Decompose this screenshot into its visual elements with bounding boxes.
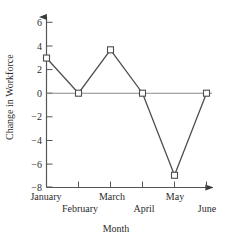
x-tick-label-february: February xyxy=(62,203,98,214)
x-axis-title: Month xyxy=(103,223,130,234)
y-axis-title: Change in Workforce xyxy=(4,54,15,140)
y-tick-label-4: 4 xyxy=(37,41,42,52)
series-markers xyxy=(44,47,210,178)
data-point-april xyxy=(140,90,146,96)
data-point-february xyxy=(76,90,82,96)
y-axis: 6 4 2 0 −2 −4 −6 −8 Change in Workforce xyxy=(4,17,53,193)
y-tick-label-0: 0 xyxy=(37,88,42,99)
y-tick-label-6: 6 xyxy=(37,17,42,28)
x-axis: January February March April May June Mo… xyxy=(30,182,216,235)
x-tick-marks xyxy=(47,182,207,188)
series-line xyxy=(47,50,207,175)
data-point-january xyxy=(44,55,50,61)
data-point-june xyxy=(204,90,210,96)
data-series-change-in-workforce xyxy=(44,47,210,178)
data-point-march xyxy=(108,47,114,53)
y-tick-label-2: 2 xyxy=(37,64,42,75)
y-tick-label-minus4: −4 xyxy=(31,135,42,146)
x-tick-label-may: May xyxy=(166,191,184,202)
data-point-may xyxy=(172,172,178,178)
x-tick-label-april: April xyxy=(133,203,154,214)
chart-container: 6 4 2 0 −2 −4 −6 −8 Change in Workforce xyxy=(0,0,229,242)
y-tick-label-minus2: −2 xyxy=(31,111,42,122)
x-tick-label-june: June xyxy=(198,203,217,214)
y-tick-label-minus6: −6 xyxy=(31,159,42,170)
x-tick-label-january: January xyxy=(30,191,61,202)
line-chart: 6 4 2 0 −2 −4 −6 −8 Change in Workforce xyxy=(0,0,229,242)
x-tick-label-march: March xyxy=(99,191,125,202)
y-tick-marks xyxy=(47,22,53,187)
